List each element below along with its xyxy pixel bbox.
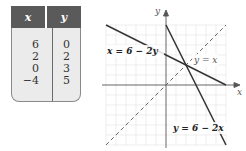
label-y-equals-6-minus-2x: y = 6 − 2x — [172, 123, 224, 133]
y-axis-arrow-icon — [164, 10, 169, 16]
label-x-equals-6-minus-2y: x = 6 − 2y — [106, 46, 159, 56]
label-y-equals-x: y = x — [193, 55, 217, 65]
y-axis-label: y — [154, 6, 161, 16]
coordinate-graph: x y x = 6 − 2y y = x y = 6 − 2x — [0, 0, 246, 151]
x-axis-label: x — [237, 87, 242, 97]
